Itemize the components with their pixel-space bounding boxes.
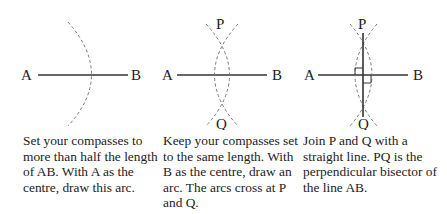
point-a-label: A: [162, 67, 173, 83]
arc-from-a: [68, 22, 92, 126]
step-2-caption: Keep your compasses set to the same leng…: [163, 133, 298, 211]
step-2-figure: A B P Q: [162, 16, 282, 130]
point-b-label: B: [413, 67, 423, 83]
construction-diagram: A B A B P Q A B P Q: [0, 0, 447, 130]
point-a-label: A: [21, 67, 32, 83]
step-3-figure: A B P Q: [304, 16, 423, 130]
point-a-label: A: [304, 67, 315, 83]
point-p-label: P: [358, 16, 366, 32]
step-1-figure: A B: [21, 22, 141, 126]
point-q-label: Q: [358, 116, 369, 130]
step-3-caption: Join P and Q with a straight line. PQ is…: [303, 133, 443, 195]
point-p-label: P: [216, 16, 224, 32]
step-1-caption: Set your compasses to more than half the…: [23, 133, 158, 195]
point-q-label: Q: [216, 116, 227, 130]
point-b-label: B: [131, 67, 141, 83]
right-angle-marker: [355, 68, 363, 75]
point-b-label: B: [272, 67, 282, 83]
right-angle-marker: [363, 75, 371, 83]
